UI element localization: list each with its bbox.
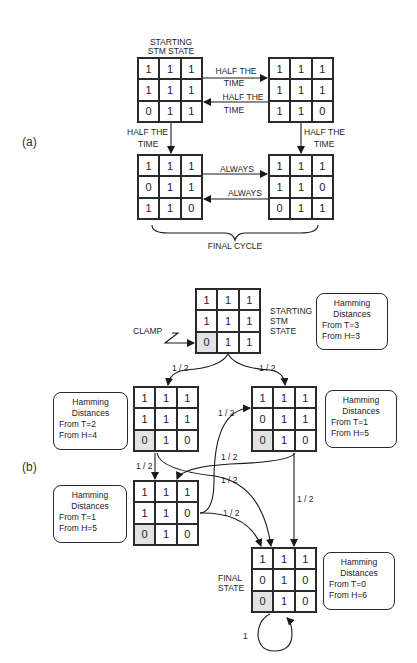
prob-final-loop: 1 — [243, 631, 248, 641]
cell: 1 — [269, 58, 290, 79]
prob-start-left: 1 / 2 — [172, 363, 189, 373]
grid-b-lower: 1 1 1 1 1 0 0 1 0 — [133, 480, 199, 546]
cell: 0 — [138, 101, 159, 122]
hamming-from-t: From T=2 — [54, 419, 127, 430]
cell: 1 — [312, 58, 333, 79]
cell: 1 — [312, 155, 333, 176]
clamped-cell: 0 — [196, 332, 217, 353]
cell: 0 — [181, 198, 202, 219]
cell: 1 — [269, 176, 290, 197]
cell: 1 — [138, 58, 159, 79]
edge-label-a1-a2-2: TIME — [206, 78, 262, 88]
grid-a-right-top: 1 1 1 1 1 1 1 1 0 — [268, 57, 334, 123]
final-state-label-1: FINAL — [218, 573, 242, 583]
cell: 1 — [217, 332, 238, 353]
hamming-box-final: Hamming Distances From T=0 From H=6 — [323, 552, 395, 610]
panel-b-label: (b) — [22, 460, 37, 474]
cell: 1 — [252, 548, 273, 569]
hamming-from-t: From T=0 — [324, 579, 394, 590]
cell: 1 — [181, 176, 202, 197]
panel-a-label: (a) — [22, 135, 37, 149]
cell: 1 — [138, 79, 159, 100]
cell: 0 — [252, 569, 273, 590]
cell: 0 — [312, 176, 333, 197]
cell: 1 — [217, 310, 238, 331]
cell: 1 — [312, 79, 333, 100]
hamming-subtitle: Distances — [324, 568, 394, 579]
cell: 1 — [181, 101, 202, 122]
clamped-cell: 0 — [252, 430, 273, 451]
cell: 0 — [177, 502, 198, 523]
hamming-subtitle: Distances — [326, 406, 396, 417]
cell: 1 — [181, 155, 202, 176]
cell: 1 — [196, 310, 217, 331]
hamming-from-t: From T=3 — [317, 320, 387, 331]
edge-label-a1-a3: HALF THE — [127, 127, 168, 137]
cell: 0 — [295, 591, 316, 612]
cell: 1 — [239, 310, 260, 331]
hamming-from-h: From H=6 — [324, 590, 394, 601]
cell: 1 — [273, 430, 294, 451]
cell: 1 — [177, 408, 198, 429]
cell: 1 — [290, 155, 311, 176]
cell: 1 — [159, 176, 180, 197]
cell: 1 — [134, 408, 155, 429]
hamming-from-h: From H=5 — [54, 523, 126, 534]
hamming-title: Hamming — [326, 395, 396, 406]
hamming-box-start: Hamming Distances From T=3 From H=3 — [316, 293, 388, 350]
grid-a-start: 1 1 1 1 1 1 0 1 1 — [137, 57, 203, 123]
edge-label-a4-a3: ALWAYS — [222, 188, 268, 198]
cell: 1 — [217, 289, 238, 310]
edge-label-a1-a3-2: TIME — [138, 139, 158, 149]
cell: 1 — [273, 569, 294, 590]
hamming-title: Hamming — [324, 557, 394, 568]
cell: 1 — [134, 502, 155, 523]
cell: 1 — [269, 155, 290, 176]
clamped-cell: 0 — [252, 591, 273, 612]
clamped-cell: 0 — [134, 430, 155, 451]
cell: 1 — [239, 289, 260, 310]
hamming-box-right: Hamming Distances From T=1 From H=5 — [325, 390, 397, 448]
cell: 1 — [196, 289, 217, 310]
cell: 1 — [269, 79, 290, 100]
cell: 0 — [295, 569, 316, 590]
cell: 0 — [252, 408, 273, 429]
starting-stm-label-line2: STM STATE — [140, 46, 202, 56]
cell: 1 — [181, 58, 202, 79]
cell: 0 — [295, 430, 316, 451]
cell: 1 — [273, 591, 294, 612]
cell: 1 — [269, 101, 290, 122]
cell: 1 — [177, 387, 198, 408]
clamp-label: CLAMP — [133, 326, 162, 336]
cell: 1 — [134, 481, 155, 502]
cell: 1 — [155, 387, 176, 408]
prob-start-right: 1 / 2 — [259, 363, 276, 373]
starting-state-label-1: STARTING — [270, 306, 312, 316]
final-cycle-label: FINAL CYCLE — [195, 241, 275, 251]
prob-right-final: 1 / 2 — [297, 494, 314, 504]
cell: 1 — [159, 58, 180, 79]
hamming-from-h: From H=4 — [54, 430, 127, 441]
cell: 1 — [134, 387, 155, 408]
cell: 1 — [181, 79, 202, 100]
grid-a-left-bottom: 1 1 1 0 1 1 1 1 0 — [137, 154, 203, 220]
cell: 1 — [155, 481, 176, 502]
starting-state-label-2: STM — [270, 316, 288, 326]
hamming-from-h: From H=5 — [326, 428, 396, 439]
cell: 1 — [159, 198, 180, 219]
edge-label-a3-a4: ALWAYS — [214, 164, 260, 174]
cell: 1 — [290, 101, 311, 122]
cell: 0 — [177, 430, 198, 451]
grid-b-start: 1 1 1 1 1 1 0 1 1 — [195, 288, 261, 354]
hamming-from-t: From T=1 — [326, 417, 396, 428]
cell: 0 — [138, 176, 159, 197]
cell: 1 — [273, 548, 294, 569]
cell: 1 — [295, 387, 316, 408]
edge-label-a2-a1-2: TIME — [206, 105, 262, 115]
cell: 1 — [138, 155, 159, 176]
hamming-title: Hamming — [54, 490, 126, 501]
cell: 1 — [159, 79, 180, 100]
hamming-box-lower: Hamming Distances From T=1 From H=5 — [53, 485, 127, 543]
cell: 0 — [269, 198, 290, 219]
starting-state-label-3: STATE — [270, 326, 296, 336]
